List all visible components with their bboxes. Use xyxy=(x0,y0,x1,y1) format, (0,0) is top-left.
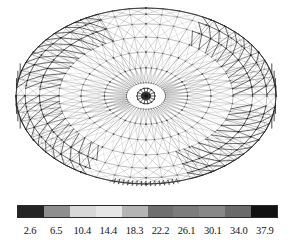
colorbar-tick-label: 10.4 xyxy=(69,222,95,240)
colorbar-segment xyxy=(70,206,96,217)
colorbar-segment xyxy=(18,206,44,217)
colorbar-tick-label: 30.1 xyxy=(200,222,226,240)
mesh-plot-area xyxy=(0,0,292,196)
colorbar-tick-label: 37.9 xyxy=(252,222,278,240)
colorbar-segment xyxy=(225,206,251,217)
colorbar-segment xyxy=(96,206,122,217)
colorbar-tick-label: 26.1 xyxy=(174,222,200,240)
colorbar-tick-label: 14.4 xyxy=(95,222,121,240)
colorbar-tick-label: 18.3 xyxy=(121,222,147,240)
colorbar-segment xyxy=(122,206,148,217)
colorbar-segment xyxy=(199,206,225,217)
colorbar-tick-label: 6.5 xyxy=(43,222,69,240)
mesh-diagram xyxy=(0,0,292,196)
colorbar-tick-label: 2.6 xyxy=(17,222,43,240)
colorbar-tick-label: 22.2 xyxy=(147,222,173,240)
colorbar-segment xyxy=(173,206,199,217)
colorbar-segment xyxy=(251,206,277,217)
figure-container: 2.66.510.414.418.322.226.130.134.037.9 xyxy=(0,0,292,244)
colorbar-legend: 2.66.510.414.418.322.226.130.134.037.9 xyxy=(0,196,292,244)
colorbar-strip xyxy=(17,205,278,218)
colorbar-segment xyxy=(148,206,174,217)
colorbar-tick-labels: 2.66.510.414.418.322.226.130.134.037.9 xyxy=(17,222,278,240)
colorbar-segment xyxy=(44,206,70,217)
colorbar-tick-label: 34.0 xyxy=(226,222,252,240)
